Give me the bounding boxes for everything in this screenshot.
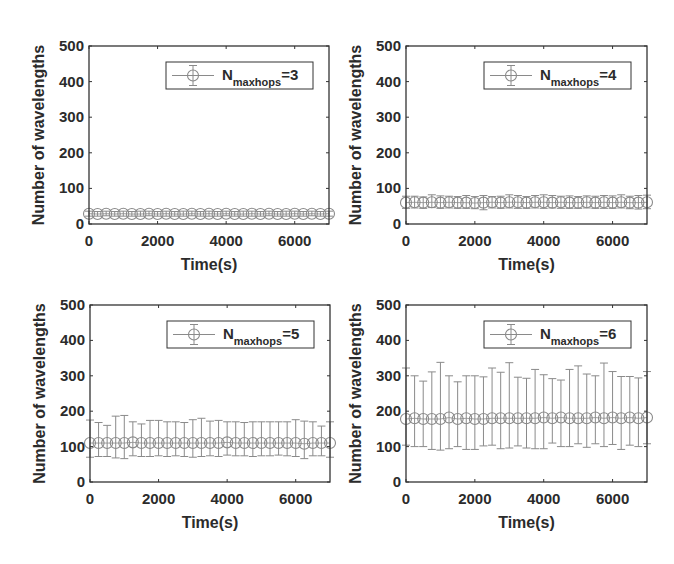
y-tick-label: 300 (60, 367, 85, 384)
y-tick-label: 500 (60, 296, 85, 313)
y-tick-label: 0 (393, 215, 401, 232)
y-tick-label: 100 (376, 438, 401, 455)
x-tick-label: 6000 (596, 490, 629, 507)
legend: Nmaxhops=5 (167, 321, 314, 348)
legend-label-subscript: maxhops (234, 335, 282, 347)
data-series (85, 415, 336, 458)
legend: Nmaxhops=6 (484, 321, 631, 348)
y-tick-label: 200 (60, 402, 85, 419)
x-tick-label: 0 (402, 490, 410, 507)
chart-panel-top-left: 01002003004005000200040006000Time(s)Numb… (30, 37, 335, 273)
x-tick-label: 4000 (210, 490, 243, 507)
legend-label-subscript: maxhops (233, 76, 281, 88)
y-tick-label: 400 (376, 331, 401, 348)
figure: 01002003004005000200040006000Time(s)Numb… (0, 0, 674, 564)
y-axis-label: Number of wavelengths (30, 45, 47, 226)
legend-label-suffix: =5 (282, 325, 299, 342)
legend-label-main: N (540, 66, 551, 83)
y-tick-label: 200 (376, 144, 401, 161)
y-tick-label: 500 (376, 296, 401, 313)
y-tick-label: 300 (376, 367, 401, 384)
legend: Nmaxhops=3 (166, 62, 313, 89)
x-tick-label: 2000 (142, 490, 175, 507)
x-tick-label: 6000 (596, 232, 629, 249)
legend-label-main: N (223, 325, 234, 342)
x-tick-label: 2000 (141, 232, 174, 249)
legend-label-main: N (540, 325, 551, 342)
y-tick-label: 400 (376, 73, 401, 90)
y-tick-label: 100 (59, 179, 84, 196)
legend-label-subscript: maxhops (551, 335, 599, 347)
x-tick-label: 4000 (209, 232, 242, 249)
y-axis-label: Number of wavelengths (31, 303, 48, 484)
y-tick-label: 100 (376, 179, 401, 196)
y-axis-label: Number of wavelengths (347, 303, 364, 484)
y-tick-label: 0 (393, 473, 401, 490)
chart-panel-bottom-left: 01002003004005000200040006000Time(s)Numb… (31, 296, 336, 531)
legend-label-subscript: maxhops (551, 76, 599, 88)
chart-panel-top-right: 01002003004005000200040006000Time(s)Numb… (347, 37, 653, 273)
x-tick-label: 0 (86, 490, 94, 507)
data-series (84, 208, 335, 219)
x-tick-label: 4000 (527, 232, 560, 249)
legend: Nmaxhops=4 (484, 62, 631, 89)
y-tick-label: 500 (376, 37, 401, 54)
x-tick-label: 4000 (527, 490, 560, 507)
y-tick-label: 400 (59, 73, 84, 90)
legend-label-suffix: =3 (281, 66, 298, 83)
y-tick-label: 300 (376, 108, 401, 125)
x-tick-label: 6000 (278, 232, 311, 249)
y-tick-label: 300 (59, 108, 84, 125)
x-tick-label: 0 (85, 232, 93, 249)
legend-label-suffix: =4 (599, 66, 617, 83)
x-axis-label: Time(s) (498, 256, 555, 273)
x-axis-label: Time(s) (498, 514, 555, 531)
data-series (401, 362, 653, 450)
chart-panel-bottom-right: 01002003004005000200040006000Time(s)Numb… (347, 296, 653, 531)
data-series (401, 195, 653, 210)
y-tick-label: 200 (59, 144, 84, 161)
y-tick-label: 200 (376, 402, 401, 419)
x-axis-label: Time(s) (181, 256, 238, 273)
y-tick-label: 100 (60, 438, 85, 455)
x-tick-label: 0 (402, 232, 410, 249)
y-tick-label: 500 (59, 37, 84, 54)
x-tick-label: 2000 (458, 490, 491, 507)
x-tick-label: 6000 (279, 490, 312, 507)
x-tick-label: 2000 (458, 232, 491, 249)
x-axis-label: Time(s) (182, 514, 239, 531)
y-tick-label: 0 (77, 473, 85, 490)
y-axis-label: Number of wavelengths (347, 45, 364, 226)
legend-label-main: N (222, 66, 233, 83)
y-tick-label: 400 (60, 331, 85, 348)
y-tick-label: 0 (76, 215, 84, 232)
series-line (406, 202, 647, 203)
legend-label-suffix: =6 (599, 325, 616, 342)
